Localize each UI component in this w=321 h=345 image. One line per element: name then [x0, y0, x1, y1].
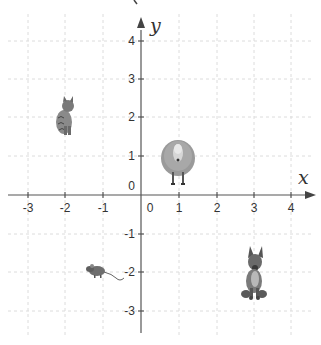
svg-text:4: 4: [288, 201, 295, 215]
svg-text:-3: -3: [124, 304, 135, 318]
svg-text:2: 2: [128, 110, 135, 124]
svg-text:4: 4: [128, 34, 135, 48]
coordinate-plane: y x -3 -2 -1 0 1 2 3 4 4 3 2 1 0 -1 -2 -…: [0, 0, 321, 345]
svg-text:3: 3: [128, 72, 135, 86]
svg-text:1: 1: [176, 201, 183, 215]
dog-icon: [241, 246, 267, 300]
x-axis-label: x: [298, 166, 309, 188]
svg-text:-2: -2: [124, 265, 135, 279]
svg-text:0: 0: [147, 201, 154, 215]
cat-icon: [56, 96, 74, 135]
svg-text:-3: -3: [23, 201, 34, 215]
x-axis: [8, 192, 310, 198]
clipped-text-fragment: [134, 0, 137, 4]
x-axis-arrow-icon: [305, 191, 316, 199]
grid: [8, 14, 314, 336]
y-axis-arrow-icon: [137, 17, 145, 28]
y-axis: [138, 30, 144, 333]
sheep-icon: [161, 140, 195, 185]
svg-text:-2: -2: [60, 201, 71, 215]
y-tick-labels: 4 3 2 1 0 -1 -2 -3: [124, 34, 135, 318]
svg-text:-1: -1: [124, 227, 135, 241]
x-tick-labels: -3 -2 -1 0 1 2 3 4: [23, 201, 295, 215]
svg-text:2: 2: [214, 201, 221, 215]
y-axis-label: y: [149, 14, 161, 36]
svg-text:3: 3: [251, 201, 258, 215]
svg-text:0: 0: [128, 179, 135, 193]
svg-text:1: 1: [128, 149, 135, 163]
svg-text:-1: -1: [98, 201, 109, 215]
